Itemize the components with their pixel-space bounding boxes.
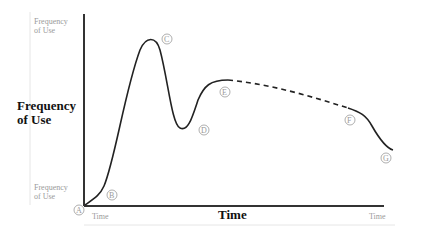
point-label-d: D	[201, 126, 207, 135]
curve-solid-decline	[348, 108, 393, 150]
point-label-g: G	[383, 154, 389, 163]
curve-dashed-plateau	[228, 80, 348, 108]
x-axis-main-label: Time	[218, 207, 247, 223]
y-axis-top-label: Frequency of Use	[34, 17, 74, 35]
point-label-b: B	[109, 191, 114, 200]
point-label-a: A	[76, 206, 82, 215]
point-label-f: F	[347, 116, 351, 125]
point-label-c: C	[164, 35, 169, 44]
x-axis-left-label: Time	[92, 212, 109, 221]
x-axis-right-label: Time	[369, 212, 386, 221]
y-axis-main-label: Frequency of Use	[17, 99, 79, 127]
point-label-e: E	[222, 88, 227, 97]
curve-solid-rise	[85, 40, 228, 206]
y-axis-bottom-label: Frequency of Use	[34, 183, 74, 201]
